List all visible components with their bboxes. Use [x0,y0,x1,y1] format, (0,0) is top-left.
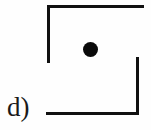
center-dot-marker [83,42,98,57]
panel-label: d) [7,94,30,121]
left-rule-line [47,5,50,63]
right-rule-line [136,57,139,115]
figure-panel-d: d) [0,0,151,130]
bottom-rule-line [46,112,139,115]
top-rule-line [47,5,144,8]
